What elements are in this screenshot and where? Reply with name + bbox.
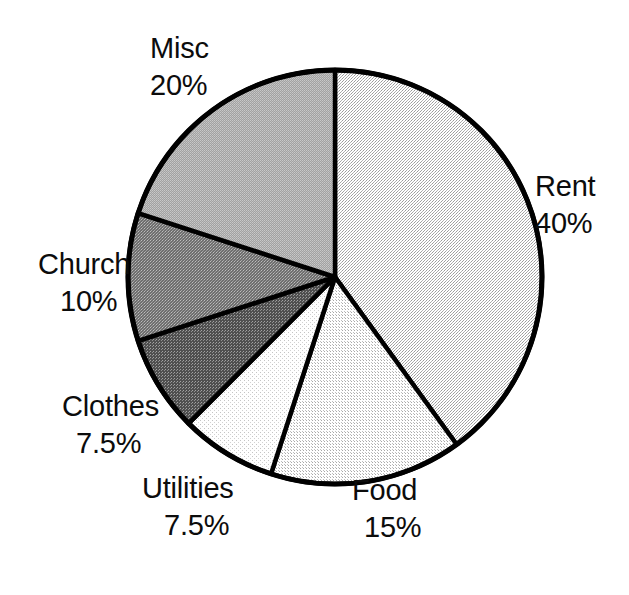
pie-chart: Misc 20% Rent 40% Food 15% Utilities 7.5…	[0, 0, 629, 595]
pie-label-clothes: Clothes 7.5%	[62, 388, 159, 462]
pie-label-utilities: Utilities 7.5%	[142, 470, 234, 544]
pie-label-rent-value: 40%	[535, 205, 595, 242]
pie-label-church-value: 10%	[38, 283, 130, 320]
pie-label-rent-name: Rent	[535, 168, 595, 205]
pie-label-utilities-value: 7.5%	[142, 507, 234, 544]
pie-label-food: Food 15%	[352, 472, 421, 546]
pie-label-utilities-name: Utilities	[142, 470, 234, 507]
pie-label-food-name: Food	[352, 472, 421, 509]
pie-label-church: Church 10%	[38, 246, 130, 320]
pie-label-food-value: 15%	[352, 509, 421, 546]
pie-slices	[128, 70, 542, 484]
pie-label-misc-name: Misc	[150, 30, 209, 67]
pie-label-clothes-name: Clothes	[62, 388, 159, 425]
pie-label-church-name: Church	[38, 246, 130, 283]
pie-label-clothes-value: 7.5%	[62, 425, 159, 462]
pie-label-misc: Misc 20%	[150, 30, 209, 104]
pie-label-misc-value: 20%	[150, 67, 209, 104]
pie-label-rent: Rent 40%	[535, 168, 595, 242]
